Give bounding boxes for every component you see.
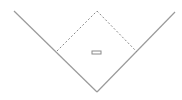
base-path-third-to-second bbox=[57, 11, 97, 51]
baseball-field-diagram bbox=[0, 0, 182, 100]
left-foul-line bbox=[14, 11, 97, 92]
pitchers-rubber-icon bbox=[92, 51, 101, 54]
infield-base-paths bbox=[57, 11, 137, 52]
right-foul-line bbox=[97, 12, 175, 92]
base-path-second-to-first bbox=[97, 11, 137, 52]
